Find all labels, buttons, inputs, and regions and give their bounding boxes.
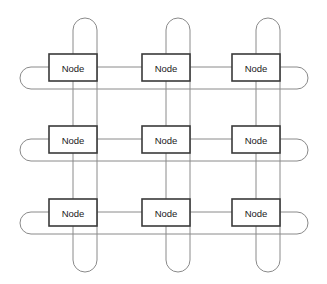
node-n21[interactable]: Node <box>142 199 190 226</box>
node-n01[interactable]: Node <box>142 54 190 81</box>
node-n02[interactable]: Node <box>232 54 280 81</box>
node-n12[interactable]: Node <box>232 126 280 153</box>
node-n22[interactable]: Node <box>232 199 280 226</box>
node-label: Node <box>155 63 178 74</box>
topology-canvas: NodeNodeNodeNodeNodeNodeNodeNodeNode <box>0 0 327 284</box>
node-n00[interactable]: Node <box>49 54 97 81</box>
node-group: NodeNodeNodeNodeNodeNodeNodeNodeNode <box>49 54 280 226</box>
node-label: Node <box>62 208 85 219</box>
node-label: Node <box>62 63 85 74</box>
node-label: Node <box>245 63 268 74</box>
node-label: Node <box>62 135 85 146</box>
node-n20[interactable]: Node <box>49 199 97 226</box>
node-n10[interactable]: Node <box>49 126 97 153</box>
node-label: Node <box>155 208 178 219</box>
torus-topology-diagram: NodeNodeNodeNodeNodeNodeNodeNodeNode <box>0 0 327 284</box>
node-n11[interactable]: Node <box>142 126 190 153</box>
node-label: Node <box>245 208 268 219</box>
node-label: Node <box>245 135 268 146</box>
node-label: Node <box>155 135 178 146</box>
